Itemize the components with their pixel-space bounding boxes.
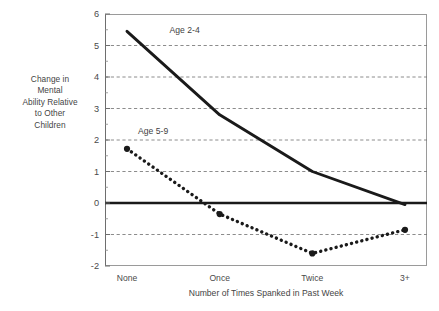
y-tick-label: -1 [91,230,99,240]
y-tick-label: 6 [94,9,99,19]
y-tick-label: 5 [94,41,99,51]
data-point-marker [309,250,315,256]
series-label-age-2-4: Age 2-4 [170,25,200,35]
chart-figure: Change in Mental Ability Relative to Oth… [0,0,439,311]
data-series [124,31,408,256]
data-point-marker [217,211,223,217]
series-line-age-2-4 [127,31,405,204]
data-point-marker [124,146,130,152]
x-axis-title: Number of Times Spanked in Past Week [105,288,427,298]
y-tick-label: 0 [94,198,99,208]
y-tick-label: 2 [94,135,99,145]
x-tick-label-3-: 3+ [400,273,410,283]
data-point-marker [402,227,408,233]
y-tick-label: -2 [91,261,99,271]
x-tick-label-twice: Twice [301,273,323,283]
chart-canvas [105,14,427,266]
plot-area: -2-10123456 NoneOnceTwice3+ Age 2-4Age 5… [105,14,427,266]
y-tick-label: 4 [94,72,99,82]
x-tick-label-none: None [117,273,138,283]
y-axis-title: Change in Mental Ability Relative to Oth… [2,74,98,131]
series-label-age-5-9: Age 5-9 [138,126,168,136]
x-tick-label-once: Once [209,273,230,283]
y-tick-label: 3 [94,104,99,114]
y-tick-marks [105,14,110,266]
y-tick-label: 1 [94,167,99,177]
gridlines [105,14,427,266]
series-line-age-5-9 [127,149,405,254]
